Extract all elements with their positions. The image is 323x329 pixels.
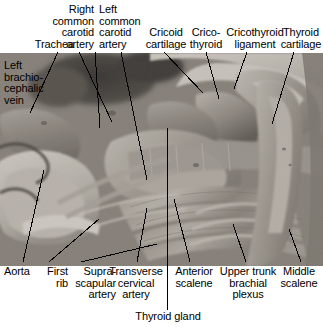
label-thyroid-gland: Thyroid gland <box>120 311 216 323</box>
anatomy-figure: Left brachio- cephalic vein Trachea Righ… <box>0 0 323 329</box>
label-transverse-cervical-artery: Transverse cervical artery <box>106 266 166 301</box>
label-left-brachiocephalic-vein: Left brachio- cephalic vein <box>4 60 56 106</box>
label-right-common-carotid-artery: Right common carotid artery <box>46 4 94 50</box>
label-middle-scalene: Middle scalene <box>277 266 321 289</box>
label-upper-trunk-brachial-plexus: Upper trunk brachial plexus <box>219 266 277 301</box>
label-first-rib: First rib <box>32 266 68 289</box>
label-thyroid-cartilage: Thyroid cartilage <box>279 27 323 50</box>
label-anterior-scalene: Anterior scalene <box>168 266 220 289</box>
